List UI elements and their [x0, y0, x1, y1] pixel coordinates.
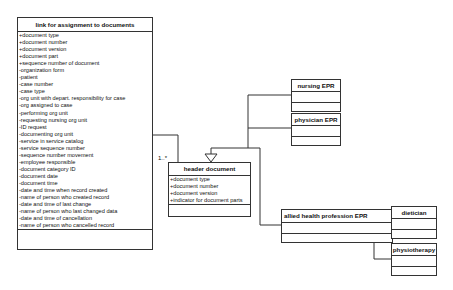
class-physiotherapy[interactable]: physiotherapy: [391, 243, 437, 276]
attributes-section: [392, 219, 436, 230]
operations-section: [292, 103, 340, 113]
attribute: +document number: [19, 39, 152, 46]
operations-section: [392, 267, 436, 277]
attribute: -org unit with depart. responsibility fo…: [19, 95, 152, 102]
attribute: +document type: [170, 176, 250, 183]
operations-section: [292, 137, 340, 147]
attribute: +document version: [170, 190, 250, 197]
attribute: -requesting nursing org unit: [19, 117, 152, 124]
attribute: -document time: [19, 180, 152, 187]
attributes-section: [282, 223, 392, 234]
attribute: +document version: [19, 46, 152, 53]
class-title: header document: [169, 163, 250, 176]
attribute: -organization form: [19, 67, 152, 74]
class-nursing-epr[interactable]: nursing EPR: [291, 79, 341, 112]
attributes-section: [292, 92, 340, 103]
operations-section: [282, 234, 392, 244]
attribute: -sequence number movement: [19, 152, 152, 159]
attribute: -name of person who created record: [19, 194, 152, 201]
attribute: +document part: [19, 53, 152, 60]
attribute: -org assigned to case: [19, 102, 152, 109]
operations-section: [392, 230, 436, 240]
class-title: allied health profession EPR: [282, 210, 392, 223]
attribute: -ID request: [19, 124, 152, 131]
operations-section: [18, 230, 152, 243]
attribute: -service sequence number: [19, 145, 152, 152]
attributes-section: [292, 126, 340, 137]
attribute-list: +document type+document number+document …: [18, 32, 152, 230]
attribute: -case number: [19, 81, 152, 88]
attribute: +indicator for document parts: [170, 197, 250, 204]
attribute: -documenting org unit: [19, 131, 152, 138]
class-title: dietician: [392, 207, 436, 219]
attribute: -employee responsible: [19, 159, 152, 166]
attribute: -document category ID: [19, 166, 152, 173]
class-header-document[interactable]: header document +document type+document …: [168, 162, 251, 217]
class-title: physiotherapy: [392, 244, 436, 256]
attribute: -name of person who cancelled record: [19, 222, 152, 229]
attribute: +document number: [170, 183, 250, 190]
attribute: -date and time of last change: [19, 201, 152, 208]
attribute: +document type: [19, 32, 152, 39]
attribute: -date and time when record created: [19, 187, 152, 194]
attributes-section: [392, 256, 436, 267]
class-title: link for assignment to documents: [18, 18, 152, 32]
class-dietician[interactable]: dietician: [391, 206, 437, 239]
attribute: -service in service catalog: [19, 138, 152, 145]
attribute: -patient: [19, 74, 152, 81]
multiplicity-many: 1..*: [158, 155, 167, 161]
class-title: nursing EPR: [292, 80, 340, 92]
class-link-for-assignment[interactable]: link for assignment to documents +docume…: [17, 17, 153, 250]
operations-section: [169, 205, 250, 215]
attribute-list: +document type+document number+document …: [169, 176, 250, 205]
attribute: -name of person who last changed data: [19, 208, 152, 215]
attribute: -date and time of cancellation: [19, 215, 152, 222]
attribute: -document date: [19, 173, 152, 180]
attribute: +sequence number of document: [19, 60, 152, 67]
attribute: -case type: [19, 88, 152, 95]
attribute: -performing org unit: [19, 110, 152, 117]
class-physician-epr[interactable]: physician EPR: [291, 113, 341, 146]
class-allied-health-epr[interactable]: allied health profession EPR: [281, 209, 393, 243]
class-title: physician EPR: [292, 114, 340, 126]
